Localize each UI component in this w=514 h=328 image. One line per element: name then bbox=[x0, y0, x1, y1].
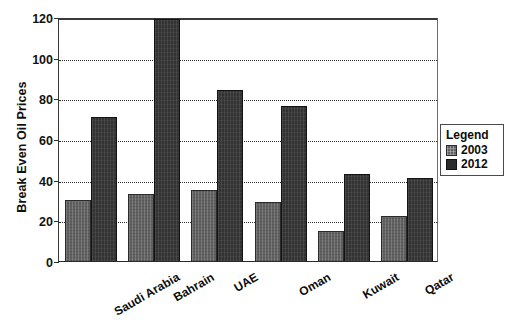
bar-group bbox=[249, 19, 312, 261]
y-tick-label-0: 0 bbox=[46, 256, 53, 270]
x-label-oman: Oman bbox=[296, 270, 332, 299]
bar-saudi-arabia-2012 bbox=[91, 117, 117, 261]
x-label-saudi-arabia: Saudi Arabia bbox=[111, 270, 181, 319]
bar-group bbox=[312, 19, 375, 261]
bar-qatar-2003 bbox=[381, 216, 407, 261]
y-axis-title: Break Even Oil Prices bbox=[15, 47, 29, 247]
y-tick-label-60: 60 bbox=[39, 134, 53, 148]
bars-layer bbox=[59, 19, 437, 261]
legend-item-2003: 2003 bbox=[446, 143, 499, 157]
legend-item-2012: 2012 bbox=[446, 157, 499, 171]
legend-label-2003: 2003 bbox=[461, 143, 488, 157]
bar-uae-2003 bbox=[191, 190, 217, 261]
bar-chart: Break Even Oil Prices 020406080100120 Sa… bbox=[0, 0, 514, 328]
bar-oman-2012 bbox=[281, 106, 307, 261]
bar-uae-2012 bbox=[217, 90, 243, 261]
bar-group bbox=[376, 19, 439, 261]
bar-group bbox=[186, 19, 249, 261]
legend: Legend 2003 2012 bbox=[440, 124, 504, 176]
y-tick-label-40: 40 bbox=[39, 175, 53, 189]
bar-saudi-arabia-2003 bbox=[65, 200, 91, 261]
bar-bahrain-2003 bbox=[128, 194, 154, 261]
bar-group bbox=[122, 19, 185, 261]
bar-bahrain-2012 bbox=[154, 19, 180, 261]
plot-area: 020406080100120 bbox=[58, 18, 438, 262]
x-label-uae: UAE bbox=[232, 270, 261, 295]
legend-swatch-2012-icon bbox=[446, 159, 457, 170]
bar-kuwait-2003 bbox=[318, 231, 344, 262]
y-tick-label-100: 100 bbox=[32, 53, 53, 67]
bar-kuwait-2012 bbox=[344, 174, 370, 261]
legend-label-2012: 2012 bbox=[461, 157, 488, 171]
y-tick-mark-0 bbox=[54, 262, 59, 263]
legend-swatch-2003-icon bbox=[446, 145, 457, 156]
bar-group bbox=[59, 19, 122, 261]
x-axis-labels: Saudi ArabiaBahrainUAEOmanKuwaitQatar bbox=[58, 264, 438, 326]
x-label-kuwait: Kuwait bbox=[360, 270, 401, 302]
bar-qatar-2012 bbox=[407, 178, 433, 261]
y-tick-label-20: 20 bbox=[39, 215, 53, 229]
x-label-qatar: Qatar bbox=[423, 270, 457, 298]
y-tick-label-80: 80 bbox=[39, 93, 53, 107]
bar-oman-2003 bbox=[255, 202, 281, 261]
legend-title: Legend bbox=[446, 128, 499, 142]
y-tick-label-120: 120 bbox=[32, 12, 53, 26]
